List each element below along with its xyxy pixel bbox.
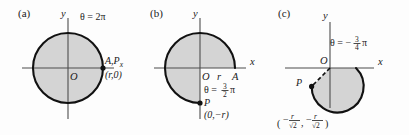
panel-b-y-axis-label: y xyxy=(192,8,198,19)
panel-c-origin-label: O xyxy=(320,55,328,66)
panel-c-label: (c) xyxy=(278,7,291,20)
panel-c-theta-prefix: θ = − xyxy=(330,37,351,48)
panel-a-point-coord: (r,0) xyxy=(105,69,123,81)
panel-b-point-label: P xyxy=(203,97,210,108)
panel-c-coord-x-denominator: √2 xyxy=(289,121,297,130)
panel-b-x-axis-label: x xyxy=(249,56,255,67)
panel-a-label: (a) xyxy=(18,7,31,20)
panel-b-theta-suffix: π xyxy=(230,84,235,95)
panel-a-y-axis-label: y xyxy=(60,8,66,19)
panel-c-theta-suffix: π xyxy=(362,37,367,48)
panel-c-coord-x-numerator: r xyxy=(291,112,294,121)
figure-canvas: (a) y O θ = 2π A,Px (r,0) (b) y x O r A xyxy=(0,0,409,135)
panel-b-point-coord: (0,−r) xyxy=(204,109,229,121)
panel-c-point-label: P xyxy=(295,77,302,88)
panel-b-label: (b) xyxy=(150,7,163,20)
panel-c-point-coord: ( − r √2 , − r √2 ) xyxy=(277,112,328,130)
panel-c-coord-open-paren: ( xyxy=(277,118,281,130)
panel-b-radius-label: r xyxy=(217,71,222,82)
panel-c-theta-label: θ = − 3 4 π xyxy=(330,35,367,52)
panel-a: (a) y O θ = 2π A,Px (r,0) xyxy=(18,7,124,119)
panel-b: (b) y x O r A θ = 3 2 π P (0,−r) xyxy=(150,7,255,121)
panel-c-coord-close-paren: ) xyxy=(325,118,328,130)
panel-c-coord-y-denominator: √2 xyxy=(312,121,320,130)
panel-c: (c) y x O θ = − 3 4 π P ( − r √2 , − xyxy=(277,7,383,130)
panel-c-coord-y-numerator: r xyxy=(314,112,317,121)
panel-c-point-P-marker xyxy=(309,84,314,89)
panel-a-theta-label: θ = 2π xyxy=(80,11,105,22)
panel-b-theta-denominator: 2 xyxy=(223,90,227,99)
panel-b-origin-label: O xyxy=(202,71,210,82)
panel-c-y-axis-label: y xyxy=(322,10,328,21)
panel-c-coord-comma: , xyxy=(301,117,304,128)
panel-a-origin-label: O xyxy=(70,71,78,82)
panel-c-theta-denominator: 4 xyxy=(355,43,359,52)
panel-b-theta-prefix: θ = xyxy=(204,84,217,95)
polar-angle-figure: (a) y O θ = 2π A,Px (r,0) (b) y x O r A xyxy=(0,0,409,135)
panel-b-point-P-marker xyxy=(197,100,202,105)
panel-b-point-A-label: A xyxy=(231,71,239,82)
panel-a-point-label: A,Px xyxy=(104,55,124,69)
panel-c-x-axis-label: x xyxy=(377,56,383,67)
